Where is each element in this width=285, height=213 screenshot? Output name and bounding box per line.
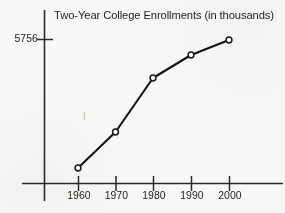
data-point-markers	[75, 37, 232, 171]
chart-canvas	[0, 0, 285, 213]
x-axis-tick-label-1970: 1970	[96, 189, 138, 202]
axis-group	[22, 10, 283, 201]
x-axis-tick-label-1980: 1980	[133, 189, 175, 202]
data-series-line	[78, 40, 229, 168]
data-point-1980	[150, 75, 156, 81]
data-point-1990	[188, 52, 194, 58]
line-chart: Two-Year College Enrollments (in thousan…	[0, 0, 285, 213]
data-point-1960	[75, 165, 81, 171]
chart-title: Two-Year College Enrollments (in thousan…	[50, 8, 278, 22]
chart-screenshot: Two-Year College Enrollments (in thousan…	[0, 0, 285, 213]
y-axis-tick-label-5756: 5756	[2, 32, 38, 45]
data-point-1970	[113, 129, 119, 135]
x-axis-tick-label-2000: 2000	[209, 189, 251, 202]
x-axis-tick-label-1990: 1990	[171, 189, 213, 202]
data-point-2000	[226, 37, 232, 43]
x-axis-tick-label-1960: 1960	[58, 189, 100, 202]
